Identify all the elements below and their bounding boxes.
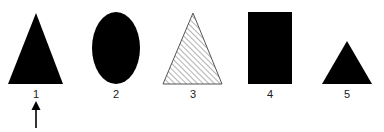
shape-figure: 1 2 3 4 5	[0, 0, 384, 132]
shape-rectangle-4	[248, 12, 292, 84]
shape-label-5: 5	[327, 89, 367, 100]
shape-label-3: 3	[173, 89, 213, 100]
shape-ellipse-2	[92, 12, 140, 84]
shape-label-2: 2	[96, 89, 136, 100]
shape-label-4: 4	[250, 89, 290, 100]
shape-label-1: 1	[16, 89, 56, 100]
figure-canvas	[0, 0, 384, 132]
